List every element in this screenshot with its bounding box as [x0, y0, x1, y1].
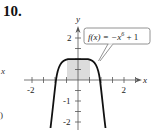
y-tick-label-2: 2 — [67, 33, 72, 43]
function-label: f(x) = −x6 + 1 — [88, 31, 138, 42]
x-tick-label-2: 2 — [122, 85, 127, 95]
function-graph: y x -2 2 2 -1 -2 f(x) = −x6 + 1 — [0, 0, 157, 138]
x-axis-label: x — [142, 75, 147, 85]
y-axis-label: y — [75, 14, 80, 24]
y-tick-label-neg2: -2 — [63, 117, 71, 127]
x-tick-label-neg2: -2 — [27, 85, 35, 95]
y-tick-label-neg1: -1 — [63, 96, 71, 106]
function-callout: f(x) = −x6 + 1 — [84, 28, 150, 61]
